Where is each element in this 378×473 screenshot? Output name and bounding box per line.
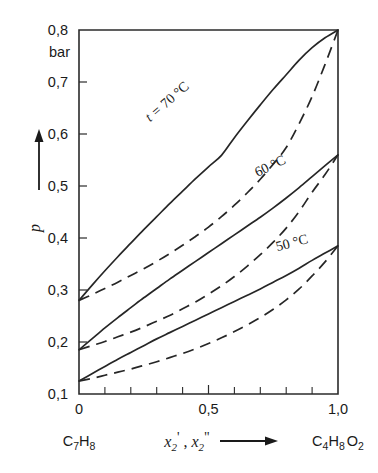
annotation-70c-value: 70 °C	[158, 79, 192, 112]
y-tick-label-3: 0,4	[48, 230, 68, 246]
y-axis-title: p	[26, 224, 44, 233]
svg-text:t = 70 °C: t = 70 °C	[142, 79, 192, 125]
annotation-70c: t = 70 °C	[142, 79, 192, 125]
annotation-60c-text: 60 °C	[252, 152, 288, 180]
y-tick-label-0: 0,1	[48, 386, 68, 402]
x-axis-arrow-icon	[220, 437, 278, 446]
left-component-formula: C7H8	[63, 433, 96, 452]
y-tick-label-1: 0,2	[48, 334, 68, 350]
x-tick-label-0: 0	[75, 401, 83, 417]
curve-50c-solid	[79, 246, 338, 381]
curve-60c-solid	[79, 155, 338, 350]
right-component-formula: C4H8O2	[312, 433, 364, 452]
y-tick-label-2: 0,3	[48, 282, 68, 298]
y-tick-label-6: 0,7	[48, 74, 68, 90]
x-axis-title: x2' , x2"	[163, 430, 209, 453]
y-tick-label-5: 0,6	[48, 126, 68, 142]
x-tick-label-1: 0,5	[198, 401, 218, 417]
curve-70c-dashed	[79, 30, 338, 300]
y-axis-ticks	[79, 82, 87, 342]
curve-group	[79, 30, 338, 381]
x-axis-ticks	[105, 385, 312, 394]
y-axis-arrow-icon	[35, 129, 44, 190]
y-tick-label-4: 0,5	[48, 178, 68, 194]
x-axis-tick-labels: 00,51,0	[75, 401, 348, 417]
y-axis-unit-label: bar	[49, 44, 70, 60]
y-axis-tick-labels: 0,10,20,30,40,50,60,70,8	[48, 22, 68, 402]
curve-70c-solid	[79, 30, 338, 300]
annotation-60c: 60 °C	[252, 152, 288, 180]
y-tick-label-7: 0,8	[48, 22, 68, 38]
plot-frame	[79, 30, 338, 394]
x-tick-label-2: 1,0	[328, 401, 348, 417]
chart-canvas: 0,10,20,30,40,50,60,70,8 00,51,0 bar p t…	[0, 0, 378, 473]
vapour-liquid-equilibrium-chart: 0,10,20,30,40,50,60,70,8 00,51,0 bar p t…	[0, 0, 378, 473]
